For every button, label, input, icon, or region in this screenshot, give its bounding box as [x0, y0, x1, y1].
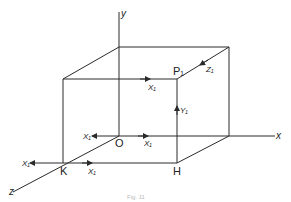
point-label-k: K: [60, 165, 68, 177]
vector-label-x-k-right: X₁: [87, 167, 96, 176]
vector-label-z-top-right: Z₁: [205, 65, 214, 74]
z-axis-label: z: [8, 186, 14, 197]
vector-label-y-front-right: Y₁: [180, 106, 188, 115]
vector-label-x-origin-right: X₁: [143, 139, 152, 148]
cube-diagram: y x z P₁ O H K X₁ Z₁ Y₁ X₁ X₁ X₁ X₁ Fig.…: [0, 0, 291, 202]
figure-caption: Fig. 11: [127, 194, 146, 200]
y-axis-label: y: [120, 8, 127, 19]
vector-label-x-top-front: X₁: [147, 83, 156, 92]
vector-label-x-k-left: X₁: [21, 159, 30, 168]
point-label-h: H: [173, 165, 181, 177]
point-label-p1: P₁: [173, 65, 184, 77]
x-axis-label: x: [275, 130, 282, 141]
vector-label-x-origin-left: X₁: [82, 132, 91, 141]
point-label-o: O: [115, 137, 124, 149]
cube-edge-top-left: [63, 47, 119, 79]
cube-edge-bottom-right: [177, 136, 229, 163]
